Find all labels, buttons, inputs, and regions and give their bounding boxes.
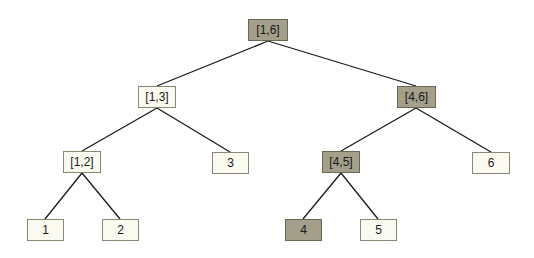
edge-1-2-2 [82, 173, 120, 219]
node-1-2: [1,2] [63, 151, 101, 173]
node-leaf-5: 5 [360, 219, 397, 241]
edge-1-3-3 [157, 108, 230, 152]
node-root-1-6: [1,6] [248, 19, 288, 41]
edge-1-2-1 [45, 173, 82, 219]
node-4-5: [4,5] [322, 151, 360, 173]
node-leaf-4: 4 [285, 219, 322, 241]
node-leaf-1: 1 [27, 219, 64, 241]
node-leaf-3: 3 [212, 152, 249, 174]
edge-4-5-5 [341, 173, 378, 219]
edge-root-1-3 [157, 41, 268, 86]
edge-root-4-6 [268, 41, 416, 86]
node-leaf-6: 6 [472, 152, 510, 174]
edge-4-6-4-5 [341, 108, 416, 151]
node-4-6: [4,6] [397, 86, 436, 108]
edge-4-6-6 [416, 108, 491, 152]
edge-4-5-4 [303, 173, 341, 219]
edge-1-3-1-2 [82, 108, 157, 151]
node-leaf-2: 2 [102, 219, 139, 241]
node-1-3: [1,3] [138, 86, 176, 108]
